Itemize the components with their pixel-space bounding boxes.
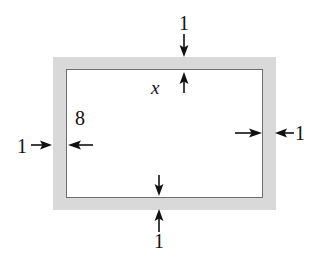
arrow-right-icon-right-inner [235,127,263,139]
interior-width-label: x [151,78,159,97]
arrow-right-icon-left-outer [31,139,53,151]
left-margin-label: 1 [17,136,27,156]
arrow-left-icon-left-inner [68,139,94,151]
top-margin-label: 1 [179,13,189,33]
arrow-left-icon-right-outer [275,127,295,139]
arrow-down-icon-top-outer [178,34,190,58]
right-margin-label: 1 [295,123,305,143]
interior-height-label: 8 [75,108,85,128]
margin-rectangle-diagram: 1 x 1 1 [0,0,320,266]
bottom-margin-label: 1 [154,231,164,251]
arrow-down-icon-bottom-inner [153,175,165,197]
arrow-up-icon-top-inner [178,72,190,94]
